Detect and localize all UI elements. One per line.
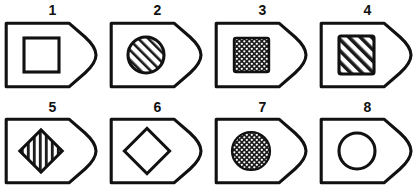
item-1-label: 1 xyxy=(0,2,105,18)
item-7-drawing xyxy=(213,116,312,186)
item-8-label: 8 xyxy=(315,99,420,115)
figure-grid: 1 2 3 4 xyxy=(0,0,420,193)
figure-panel: 1 2 3 4 xyxy=(0,0,420,193)
item-5-label: 5 xyxy=(0,99,105,115)
item-4-drawing xyxy=(318,20,417,90)
outer-tag-shape xyxy=(321,119,411,183)
figure-item-3: 3 xyxy=(210,0,315,97)
figure-item-2: 2 xyxy=(105,0,210,97)
inner-circle-stippled xyxy=(232,132,270,170)
item-2-drawing xyxy=(108,20,207,90)
item-6-drawing xyxy=(108,116,207,186)
inner-circle-hatched xyxy=(128,37,164,73)
figure-item-5: 5 xyxy=(0,97,105,194)
item-2-label: 2 xyxy=(105,2,210,18)
figure-item-7: 7 xyxy=(210,97,315,194)
item-3-drawing xyxy=(213,20,312,90)
figure-item-8: 8 xyxy=(315,97,420,194)
item-6-label: 6 xyxy=(105,99,210,115)
item-3-label: 3 xyxy=(210,2,315,18)
item-8-drawing xyxy=(318,116,417,186)
outer-tag-shape xyxy=(6,23,96,87)
figure-item-1: 1 xyxy=(0,0,105,97)
inner-square-hatched xyxy=(339,36,374,74)
inner-square-stippled xyxy=(234,38,269,72)
item-4-label: 4 xyxy=(315,2,420,18)
figure-item-4: 4 xyxy=(315,0,420,97)
item-1-drawing xyxy=(3,20,102,90)
item-7-label: 7 xyxy=(210,99,315,115)
figure-item-6: 6 xyxy=(105,97,210,194)
item-5-drawing xyxy=(3,116,102,186)
